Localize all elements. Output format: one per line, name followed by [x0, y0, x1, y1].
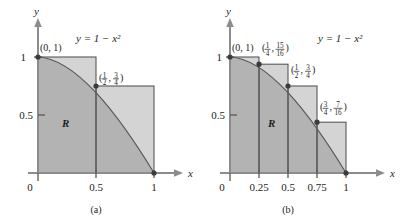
- region-label-r: R: [61, 117, 69, 129]
- frac-denominator-1: 2: [103, 79, 107, 87]
- x-tick-label-075: 0.75: [307, 181, 327, 193]
- point-marker-3: [314, 120, 319, 125]
- point-label-threequarter-sevensixteenths: ( 3 4 , 7 16 ): [320, 101, 347, 117]
- svg-text:): ): [312, 64, 315, 76]
- point-label-0-1: (0, 1): [232, 42, 254, 54]
- panel-caption-b: (b): [282, 204, 294, 216]
- svg-text:,: ,: [330, 101, 333, 112]
- svg-text:): ): [285, 42, 288, 54]
- svg-text:,: ,: [301, 64, 304, 75]
- frac-denominator-2: 16: [276, 50, 284, 58]
- y-tick-label-05: 0.5: [211, 109, 225, 121]
- point-marker-0: [227, 54, 232, 59]
- point-label-0-1: (0, 1): [40, 42, 62, 54]
- frac-denominator-2: 4: [306, 72, 310, 80]
- x-tick-label-05: 0.5: [89, 181, 103, 193]
- y-axis-arrowhead: [34, 18, 42, 27]
- x-axis-arrowhead: [174, 169, 183, 177]
- x-tick-label-1: 1: [151, 181, 157, 193]
- curve-equation-label: y = 1 − x²: [75, 32, 121, 44]
- svg-text:,: ,: [272, 42, 275, 53]
- x-axis-label: x: [389, 167, 395, 179]
- svg-text:): ): [343, 101, 346, 113]
- x-tick-label-0: 0: [27, 181, 33, 193]
- point-marker-0: [35, 54, 40, 59]
- point-label-half-threequarter: ( 1 2 , 3 4 ): [99, 72, 123, 88]
- frac-denominator-1: 4: [266, 50, 270, 58]
- y-axis-label: y: [33, 5, 39, 17]
- x-tick-label-025: 0.25: [249, 181, 269, 193]
- y-tick-label-1: 1: [217, 51, 223, 63]
- point-marker-4: [343, 170, 348, 175]
- region-label-r: R: [267, 117, 275, 129]
- panel-caption-a: (a): [90, 204, 101, 216]
- frac-denominator-2: 16: [334, 109, 342, 117]
- point-marker-1: [256, 62, 261, 67]
- point-marker-2: [285, 83, 290, 88]
- x-tick-label-1: 1: [343, 181, 349, 193]
- point-label-half-threequarter: ( 1 2 , 3 4 ): [291, 64, 315, 80]
- y-tick-label-05: 0.5: [19, 109, 33, 121]
- frac-denominator-1: 2: [295, 72, 299, 80]
- svg-text:): ): [120, 72, 123, 84]
- y-axis-arrowhead: [226, 18, 234, 27]
- svg-text:,: ,: [109, 72, 112, 83]
- frac-denominator-2: 4: [114, 79, 118, 87]
- x-axis-arrowhead: [376, 169, 385, 177]
- curve-equation-label: y = 1 − x²: [317, 32, 363, 44]
- figure-panel-a: y x 1 0.5 0 0.5 1 (0, 1) ( 1 2 , 3 4 ): [0, 0, 208, 223]
- figure-panel-b: y x 1 0.5 0 0.25 0.5 0.75 1 (0, 1) ( 1 4: [208, 0, 416, 223]
- frac-denominator-1: 4: [324, 109, 328, 117]
- x-tick-label-05: 0.5: [281, 181, 295, 193]
- point-marker-2: [151, 170, 156, 175]
- x-axis-label: x: [187, 167, 193, 179]
- y-axis-label: y: [225, 5, 231, 17]
- point-marker-1: [93, 83, 98, 88]
- point-label-quarter-fifteensixteenths: ( 1 4 , 15 16 ): [262, 42, 289, 58]
- x-tick-label-0: 0: [219, 181, 225, 193]
- y-tick-label-1: 1: [21, 51, 27, 63]
